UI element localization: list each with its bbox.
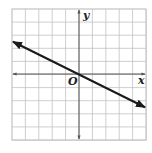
x-axis-label: x — [137, 74, 145, 87]
origin-label: O — [68, 75, 78, 88]
coordinate-plane: y x O — [0, 0, 152, 153]
